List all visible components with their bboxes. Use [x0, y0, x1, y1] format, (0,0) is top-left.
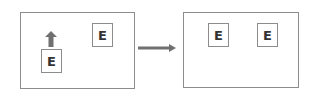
before-panel: E E — [20, 12, 135, 89]
element-box-left: E — [208, 23, 229, 47]
right-arrow-icon — [138, 44, 176, 52]
up-arrow-icon — [45, 31, 57, 47]
element-box-static: E — [92, 23, 113, 47]
after-panel: E E — [183, 12, 299, 88]
element-box-moving: E — [41, 49, 62, 73]
element-box-right: E — [257, 23, 278, 47]
